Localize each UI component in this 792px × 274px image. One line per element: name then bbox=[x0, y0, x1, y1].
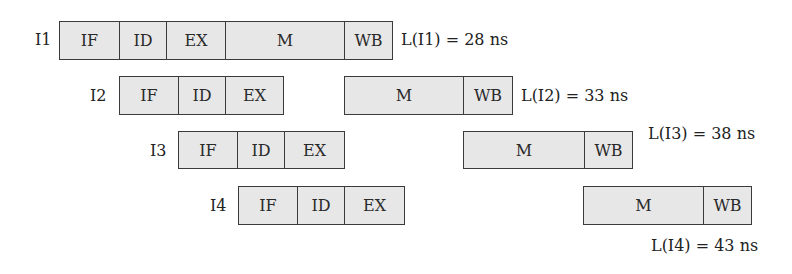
stage-wb-i1: WB bbox=[344, 21, 393, 60]
stage-id-i1: ID bbox=[119, 21, 167, 60]
stage-wb-i4: WB bbox=[703, 186, 752, 225]
stage-if-i3: IF bbox=[178, 131, 238, 169]
latency-label-i1: L(I1) = 28 ns bbox=[401, 30, 508, 50]
stage-ex-i1: EX bbox=[166, 21, 226, 60]
instruction-label-i1: I1 bbox=[35, 30, 52, 50]
stage-m-i4: M bbox=[583, 186, 704, 225]
stage-wb-i2: WB bbox=[463, 76, 513, 115]
stage-ex-i4: EX bbox=[344, 186, 405, 225]
stage-wb-i3: WB bbox=[584, 131, 633, 169]
instruction-label-i4: I4 bbox=[210, 196, 227, 216]
stage-if-i2: IF bbox=[119, 76, 179, 115]
stage-ex-i3: EX bbox=[284, 131, 345, 169]
stage-m-i2: M bbox=[344, 76, 464, 115]
instruction-label-i3: I3 bbox=[150, 141, 167, 161]
stage-m-i3: M bbox=[463, 131, 585, 169]
stage-ex-i2: EX bbox=[225, 76, 284, 115]
stage-m-i1: M bbox=[225, 21, 345, 60]
stage-id-i2: ID bbox=[178, 76, 226, 115]
latency-label-i2: L(I2) = 33 ns bbox=[521, 86, 628, 106]
latency-label-i4: L(I4) = 43 ns bbox=[651, 236, 758, 256]
stage-if-i4: IF bbox=[238, 186, 298, 225]
stage-if-i1: IF bbox=[59, 21, 120, 60]
stage-id-i4: ID bbox=[297, 186, 345, 225]
latency-label-i3: L(I3) = 38 ns bbox=[648, 124, 755, 144]
stage-id-i3: ID bbox=[237, 131, 285, 169]
instruction-label-i2: I2 bbox=[90, 86, 107, 106]
